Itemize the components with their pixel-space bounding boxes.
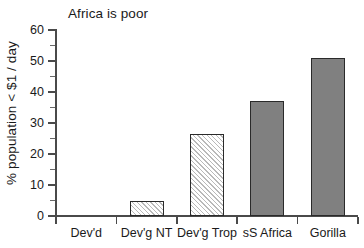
x-axis-label-3: sS Africa [237,226,297,240]
x-axis-label-2: Dev'g Trop [177,226,237,240]
x-axis-label-4: Gorilla [298,226,358,240]
bar-dev-g-nt [130,201,164,217]
x-tick-3 [236,217,238,224]
x-tick-5 [357,217,359,224]
y-tick-40 [48,91,55,93]
y-tick-50 [48,60,55,62]
chart-title: Africa is poor [68,6,148,22]
y-axis-title: % population < $1 / day [4,41,19,185]
y-tick-label-20: 20 [18,148,44,160]
bar-ss-africa [250,101,284,216]
y-tick-minor-55 [50,45,55,46]
y-tick-label-60: 60 [18,24,44,36]
y-tick-minor-15 [50,169,55,170]
bar-gorilla [311,58,345,216]
y-tick-minor-5 [50,200,55,201]
y-tick-60 [48,29,55,31]
y-tick-label-50: 50 [18,55,44,67]
plot-area [56,30,358,216]
x-axis-label-0: Dev'd [56,226,116,240]
y-tick-label-40: 40 [18,86,44,98]
x-tick-0 [55,217,57,224]
y-tick-minor-35 [50,107,55,108]
y-tick-label-0: 0 [18,210,44,222]
y-tick-20 [48,153,55,155]
bar-chart: Africa is poor % population < $1 / day 0… [0,0,364,248]
x-axis-label-1: Dev'g NT [116,226,176,240]
x-tick-2 [176,217,178,224]
x-tick-1 [116,217,118,224]
y-tick-label-30: 30 [18,117,44,129]
y-tick-30 [48,122,55,124]
y-tick-0 [48,215,55,217]
y-tick-10 [48,184,55,186]
y-tick-label-10: 10 [18,179,44,191]
x-tick-4 [297,217,299,224]
y-tick-minor-45 [50,76,55,77]
bar-dev-g-trop [190,134,224,216]
y-tick-minor-25 [50,138,55,139]
